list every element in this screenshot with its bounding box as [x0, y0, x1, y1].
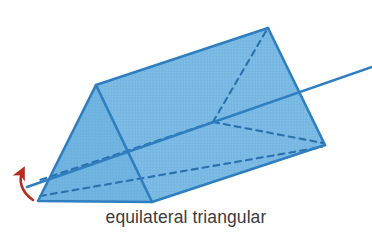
figure-container: equilateral triangular [0, 0, 372, 244]
figure-caption: equilateral triangular [0, 207, 372, 228]
prism-body [38, 28, 325, 202]
